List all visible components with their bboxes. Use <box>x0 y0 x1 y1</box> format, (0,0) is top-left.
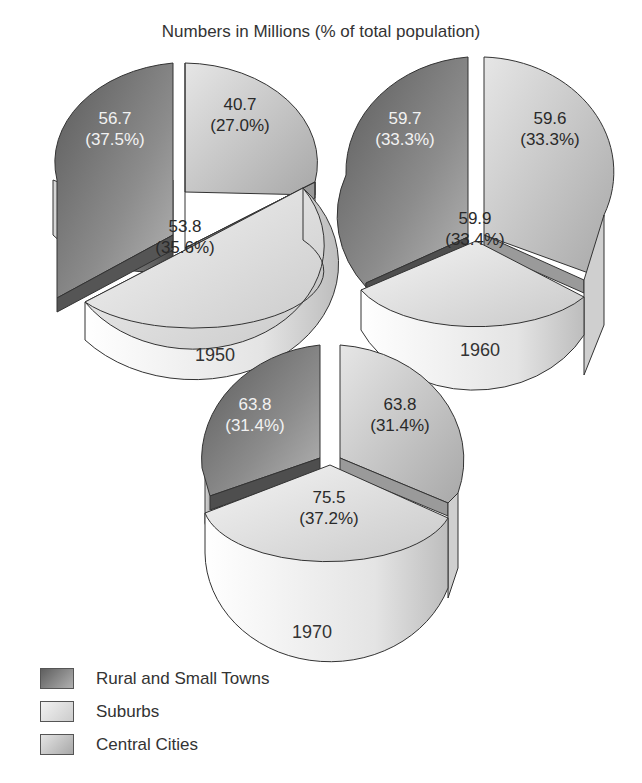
label-1970-central: 63.8 (31.4%) <box>345 394 455 436</box>
legend-item-suburbs: Suburbs <box>40 695 270 728</box>
year-label-1960: 1960 <box>460 340 500 361</box>
label-1970-suburbs: 75.5 (37.2%) <box>274 487 384 529</box>
label-1960-rural: 59.7 (33.3%) <box>350 108 460 150</box>
label-1960-central: 59.6 (33.3%) <box>495 108 605 150</box>
label-1950-central: 40.7 (27.0%) <box>185 94 295 136</box>
legend-item-central: Central Cities <box>40 728 270 761</box>
label-1950-suburbs: 53.8 (35.6%) <box>130 216 240 258</box>
year-label-1970: 1970 <box>292 622 332 643</box>
legend-item-rural: Rural and Small Towns <box>40 662 270 695</box>
legend-swatch-central <box>40 734 74 755</box>
legend: Rural and Small Towns Suburbs Central Ci… <box>40 662 270 761</box>
label-1960-suburbs: 59.9 (33.4%) <box>420 208 530 250</box>
legend-swatch-suburbs <box>40 701 74 722</box>
legend-swatch-rural <box>40 668 74 689</box>
label-1950-rural: 56.7 (37.5%) <box>60 108 170 150</box>
label-1970-rural: 63.8 (31.4%) <box>200 394 310 436</box>
year-label-1950: 1950 <box>195 345 235 366</box>
